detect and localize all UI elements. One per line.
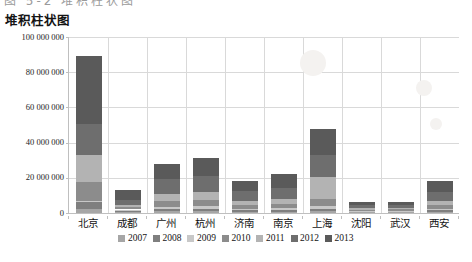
- bar-segment-2007[interactable]: [232, 212, 258, 213]
- bar-segment-2013[interactable]: [193, 158, 219, 176]
- legend-item-2007[interactable]: 2007: [118, 233, 147, 243]
- legend-item-2013[interactable]: 2013: [325, 233, 354, 243]
- bar-segment-2013[interactable]: [232, 181, 258, 191]
- bar-segment-2009[interactable]: [115, 210, 141, 211]
- bar-segment-2010[interactable]: [349, 210, 375, 211]
- bar-segment-2008[interactable]: [115, 210, 141, 212]
- bar-segment-2007[interactable]: [271, 212, 297, 213]
- bar-segment-2010[interactable]: [115, 207, 141, 209]
- bar-segment-2012[interactable]: [388, 205, 414, 208]
- bar-stack[interactable]: [154, 164, 180, 213]
- legend-item-2009[interactable]: 2009: [187, 233, 216, 243]
- bar-stack[interactable]: [115, 190, 141, 213]
- bar-stack[interactable]: [427, 181, 453, 213]
- bar-segment-2008[interactable]: [154, 209, 180, 211]
- bar-stack[interactable]: [232, 181, 258, 213]
- bar-segment-2007[interactable]: [388, 212, 414, 213]
- legend-item-2012[interactable]: 2012: [291, 233, 320, 243]
- bar-segment-2008[interactable]: [427, 210, 453, 212]
- bar-segment-2008[interactable]: [388, 211, 414, 212]
- bar-segment-2012[interactable]: [427, 192, 453, 201]
- bar-segment-2007[interactable]: [310, 211, 336, 213]
- bar-segment-2011[interactable]: [154, 194, 180, 201]
- bar-segment-2008[interactable]: [76, 202, 102, 209]
- bar-segment-2010[interactable]: [271, 204, 297, 208]
- clipped-caption-text: 图 5-2 堆积柱状图: [4, 0, 136, 8]
- bar-segment-2011[interactable]: [427, 201, 453, 205]
- bar-segment-2008[interactable]: [232, 210, 258, 212]
- bar-segment-2009[interactable]: [193, 206, 219, 209]
- bar-segment-2013[interactable]: [427, 181, 453, 192]
- bar-segment-2011[interactable]: [310, 177, 336, 200]
- bar-segment-2012[interactable]: [154, 179, 180, 194]
- bar-segment-2010[interactable]: [388, 209, 414, 210]
- bar-segment-2009[interactable]: [427, 209, 453, 211]
- bar-segment-2011[interactable]: [193, 192, 219, 199]
- bar-segment-2009[interactable]: [349, 211, 375, 212]
- legend-item-2008[interactable]: 2008: [153, 233, 182, 243]
- bar-segment-2009[interactable]: [310, 206, 336, 209]
- bar-segment-2008[interactable]: [310, 209, 336, 212]
- bar-segment-2010[interactable]: [232, 205, 258, 209]
- bar-segment-2013[interactable]: [388, 202, 414, 204]
- bar-segment-2012[interactable]: [310, 155, 336, 177]
- bar-segment-2012[interactable]: [349, 205, 375, 208]
- bar-segment-2011[interactable]: [115, 205, 141, 207]
- bar-segment-2013[interactable]: [154, 164, 180, 179]
- bar-segment-2008[interactable]: [271, 210, 297, 212]
- legend-item-2010[interactable]: 2010: [222, 233, 251, 243]
- bar-segment-2011[interactable]: [388, 208, 414, 210]
- y-axis-tick-label: 100 000 000: [0, 33, 64, 42]
- bar-segment-2008[interactable]: [349, 211, 375, 212]
- bar-segment-2013[interactable]: [349, 202, 375, 205]
- legend-label: 2013: [335, 233, 354, 243]
- bar-segment-2007[interactable]: [193, 211, 219, 213]
- legend-label: 2009: [197, 233, 216, 243]
- bar-segment-2012[interactable]: [193, 176, 219, 192]
- legend-swatch-icon: [153, 235, 160, 242]
- bar-segment-2007[interactable]: [427, 212, 453, 213]
- bar-segment-2009[interactable]: [388, 211, 414, 212]
- bar-segment-2013[interactable]: [115, 190, 141, 200]
- chart-plot-wrapper: 020 000 00040 000 00060 000 00080 000 00…: [0, 32, 472, 220]
- bar-segment-2012[interactable]: [271, 188, 297, 199]
- bar-segment-2011[interactable]: [76, 155, 102, 182]
- bar-segment-2012[interactable]: [76, 124, 102, 155]
- gridline-vertical: [342, 37, 343, 213]
- bar-segment-2010[interactable]: [193, 200, 219, 206]
- bar-stack[interactable]: [388, 202, 414, 213]
- x-axis-label-南京: 南京: [263, 217, 302, 230]
- bar-segment-2009[interactable]: [154, 207, 180, 209]
- chart-legend: 2007200820092010201120122013: [0, 230, 472, 246]
- bar-segment-2012[interactable]: [115, 200, 141, 205]
- bar-segment-2011[interactable]: [232, 201, 258, 205]
- bar-segment-2012[interactable]: [232, 191, 258, 201]
- bar-stack[interactable]: [271, 174, 297, 213]
- legend-swatch-icon: [256, 235, 263, 242]
- bar-stack[interactable]: [76, 56, 102, 213]
- legend-label: 2007: [128, 233, 147, 243]
- bar-segment-2007[interactable]: [115, 212, 141, 213]
- bar-segment-2013[interactable]: [271, 174, 297, 188]
- bar-segment-2009[interactable]: [232, 209, 258, 211]
- bar-segment-2007[interactable]: [154, 211, 180, 213]
- bar-stack[interactable]: [193, 158, 219, 213]
- bar-segment-2013[interactable]: [310, 129, 336, 155]
- bar-segment-2009[interactable]: [271, 208, 297, 210]
- bar-segment-2011[interactable]: [349, 208, 375, 209]
- legend-item-2011[interactable]: 2011: [256, 233, 284, 243]
- bar-segment-2010[interactable]: [427, 205, 453, 209]
- bar-segment-2010[interactable]: [310, 199, 336, 205]
- legend-swatch-icon: [222, 235, 229, 242]
- y-axis-labels: 020 000 00040 000 00060 000 00080 000 00…: [0, 37, 64, 213]
- bar-stack[interactable]: [349, 202, 375, 213]
- bar-segment-2010[interactable]: [76, 182, 102, 200]
- bar-segment-2011[interactable]: [271, 199, 297, 204]
- bar-segment-2007[interactable]: [76, 209, 102, 213]
- bar-segment-2013[interactable]: [76, 56, 102, 124]
- bar-segment-2010[interactable]: [154, 201, 180, 207]
- bar-segment-2008[interactable]: [193, 209, 219, 212]
- bar-segment-2007[interactable]: [349, 212, 375, 213]
- bar-stack[interactable]: [310, 129, 336, 213]
- bar-segment-2009[interactable]: [76, 201, 102, 203]
